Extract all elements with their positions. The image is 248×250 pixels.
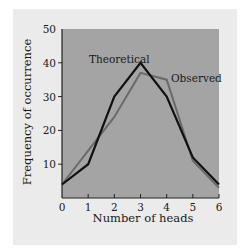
x-axis-label: Number of heads (93, 211, 194, 225)
y-tick-label: 30 (43, 91, 56, 103)
y-tick-label: 10 (43, 158, 56, 170)
y-tick-label: 50 (43, 23, 56, 35)
x-tick-label: 6 (216, 201, 223, 213)
annotation-observed: Observed (171, 72, 222, 84)
y-tick-label: 20 (43, 124, 56, 136)
y-axis-label: Frequency of occurrence (20, 39, 34, 186)
y-tick-label: 40 (43, 57, 56, 69)
line-chart: 01234561020304050 Theoretical Observed N… (0, 0, 248, 250)
x-tick-label: 1 (85, 201, 92, 213)
x-tick-label: 0 (59, 201, 66, 213)
annotation-theoretical: Theoretical (89, 53, 150, 65)
